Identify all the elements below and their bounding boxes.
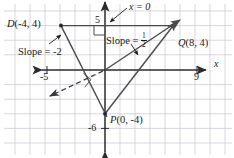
point-label-Q: Q(8, 4) — [178, 38, 208, 49]
fraction-denominator: 2 — [141, 41, 147, 49]
pointer-x-equals-0 — [110, 8, 127, 22]
y-tick-label-5: 5 — [95, 15, 100, 25]
point-label-Q-name: Q — [178, 37, 186, 48]
slope-label-one-half: Slope = 12 — [106, 32, 147, 48]
vertical-line-equation-label: x = 0 — [129, 2, 150, 12]
point-dot-P — [103, 112, 107, 116]
fraction-one-half: 12 — [141, 32, 147, 48]
point-label-P: P(0, -4) — [110, 115, 143, 126]
x-tick-label-9: 9 — [194, 72, 199, 82]
point-label-D: D(-4, 4) — [7, 19, 41, 30]
pointer-slope-neg2 — [49, 35, 61, 44]
slope-label-one-half-prefix: Slope = — [106, 35, 141, 46]
x-axis-label: x — [214, 59, 218, 69]
point-label-D-name: D — [7, 18, 15, 29]
point-dot-D — [59, 24, 63, 28]
point-label-Q-coords: (8, 4) — [186, 37, 209, 48]
point-label-D-coords: (-4, 4) — [15, 18, 41, 29]
axes — [42, 2, 206, 152]
y-tick-label-neg6: -6 — [88, 123, 96, 133]
x-tick-label-neg5: -5 — [40, 72, 48, 82]
slope-label-negative-two: Slope = -2 — [18, 47, 62, 58]
coordinate-plane-figure: D(-4, 4) Q(8, 4) P(0, -4) Slope = -2 Slo… — [0, 0, 234, 158]
right-angle-at-y-axis — [94, 26, 105, 35]
segment-DP — [61, 26, 107, 117]
point-label-P-coords: (0, -4) — [116, 114, 142, 125]
